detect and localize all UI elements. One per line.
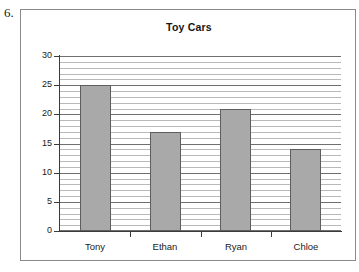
y-axis-tick-label: 25 [22,80,52,89]
x-axis-tick [271,232,272,237]
y-axis-labels: 051015202530 [21,10,52,262]
problem-number: 6. [4,6,14,19]
plot-area [60,56,341,231]
x-axis-label-ethan: Ethan [130,241,200,253]
bar-series [60,56,341,231]
bar-ryan [220,109,251,231]
y-axis-tick [54,231,59,232]
x-axis-label-chloe: Chloe [271,241,341,253]
bar-chloe [290,149,321,231]
x-axis-label-tony: Tony [60,241,130,253]
x-axis-tick [201,232,202,237]
y-axis-tick-label: 15 [22,139,52,148]
y-axis-tick [54,85,59,86]
chart-frame: Toy Cars 051015202530 TonyEthanRyanChloe [20,9,356,261]
y-axis-tick-label: 0 [22,226,52,235]
y-axis-tick [54,202,59,203]
y-axis-tick-label: 30 [22,51,52,60]
chart-title: Toy Cars [21,21,357,33]
page-canvas: 6. Toy Cars 051015202530 TonyEthanRyanCh… [0,0,359,272]
y-axis-tick [54,56,59,57]
y-axis-tick [54,173,59,174]
y-axis-tick-label: 20 [22,109,52,118]
bar-tony [80,85,111,231]
x-axis-label-ryan: Ryan [201,241,271,253]
y-axis-tick-label: 5 [22,197,52,206]
x-axis-labels: TonyEthanRyanChloe [60,241,341,257]
y-axis-tick [54,114,59,115]
y-axis-tick-label: 10 [22,168,52,177]
x-axis-tick [130,232,131,237]
bar-ethan [150,132,181,231]
y-axis-tick [54,144,59,145]
